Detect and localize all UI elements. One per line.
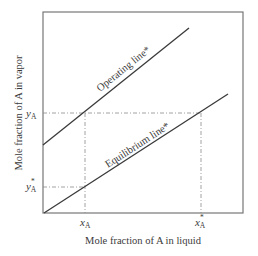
xa-star-tick-label: x*A [194, 213, 206, 230]
mass-transfer-diagram: Operating line* Equilibrium line* yA y*A… [0, 0, 258, 256]
equilibrium-line [44, 94, 228, 213]
operating-line-label: Operating line* [94, 44, 152, 94]
xa-tick-label: xA [79, 216, 91, 230]
y-axis-title: Mole fraction of A in vapor [13, 55, 24, 171]
ya-star-tick-label: y*A [25, 177, 37, 194]
equilibrium-line-label: Equilibrium line* [103, 120, 171, 170]
x-axis-title: Mole fraction of A in liquid [85, 235, 202, 246]
plot-frame [43, 12, 243, 213]
ya-tick-label: yA [25, 107, 37, 121]
